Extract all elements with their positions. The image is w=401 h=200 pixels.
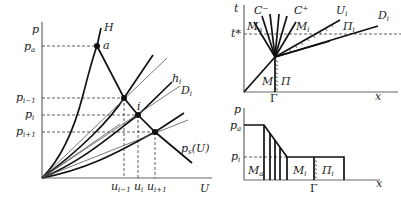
di-label: Di	[180, 84, 192, 98]
pi-i-label: Πi	[342, 20, 355, 34]
left-u-axis-label: U	[200, 182, 210, 195]
d-ray-3	[42, 120, 188, 178]
uim1-label: ui−1	[111, 180, 131, 194]
hi-label: hi	[172, 72, 181, 86]
i-label: i	[137, 100, 141, 113]
t-axis-label: t	[234, 2, 239, 15]
ui-label-tr: Ui	[336, 4, 348, 18]
m-label: M	[261, 75, 274, 88]
h-label: H	[103, 21, 114, 34]
pim1-label: pi−1	[16, 91, 36, 105]
pa-label: pa	[24, 40, 35, 54]
d-ray-1	[42, 58, 167, 178]
br-ma-label: Ma	[247, 164, 263, 178]
diagram-canvas: p U pa pi−1 pi pi+1 ui−1 ui ui+1 H a hi …	[0, 0, 401, 200]
ui-label: ui	[134, 180, 143, 194]
point-ip1	[152, 129, 158, 135]
mi-label: Mi	[295, 20, 310, 34]
ma-label: Ma	[246, 20, 262, 34]
point-im1	[121, 95, 127, 101]
c-minus-label: C⁻	[254, 4, 268, 17]
bottom-right-plot: p x Γ pa pi Ma Mi Πi	[230, 103, 383, 195]
br-pa-label: pa	[230, 119, 241, 133]
br-x-axis-label: x	[376, 177, 383, 190]
uip1-label: ui+1	[147, 180, 167, 194]
br-p-axis-label: p	[234, 103, 241, 116]
br-gamma-label: Γ	[310, 182, 318, 195]
c-plus-label: C⁺	[294, 4, 308, 17]
point-a	[94, 43, 100, 49]
top-right-plot: t x t* Γ C⁻ C⁺ Ma Mi Ui Πi Di M Π	[231, 2, 401, 105]
pi-label-tr: Π	[280, 75, 291, 88]
a-label: a	[103, 39, 110, 52]
ps-curve	[97, 46, 192, 163]
ps-label: ps(U)	[181, 142, 210, 156]
pip1-label: pi+1	[16, 125, 36, 139]
br-mi-label: Mi	[292, 164, 307, 178]
tr-x-axis-label: x	[375, 90, 382, 103]
di-label-tr: Di	[377, 9, 389, 23]
pi-label: pi	[25, 108, 34, 122]
t-star-label: t*	[231, 27, 241, 40]
left-plot: p U pa pi−1 pi pi+1 ui−1 ui ui+1 H a hi …	[16, 21, 212, 195]
br-pi-region-label: Πi	[321, 164, 334, 178]
left-p-axis-label: p	[32, 23, 39, 36]
br-pi-label: pi	[231, 150, 240, 164]
tr-gamma-label: Γ	[270, 92, 278, 105]
